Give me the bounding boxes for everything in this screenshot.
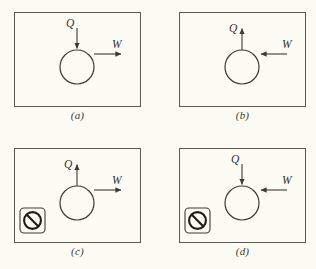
prohibition-icon-slash — [27, 215, 39, 227]
system-circle — [60, 186, 94, 220]
prohibition-icon — [185, 208, 210, 233]
panel-a-caption: (a) — [14, 109, 141, 122]
heat-label: Q — [229, 22, 237, 34]
panel-c-diagram — [14, 148, 141, 243]
work-label: W — [112, 174, 122, 186]
work-label: W — [282, 38, 292, 50]
prohibition-icon-slash — [192, 215, 204, 227]
heat-label: Q — [64, 158, 72, 170]
system-circle — [225, 186, 259, 220]
work-label: W — [112, 38, 122, 50]
panel-a: Q W (a) — [14, 12, 141, 107]
panel-c-caption: (c) — [14, 245, 141, 258]
work-label: W — [282, 174, 292, 186]
panel-b-caption: (b) — [179, 109, 306, 122]
heat-label: Q — [66, 17, 74, 29]
system-circle — [60, 50, 94, 84]
panel-d-diagram — [179, 148, 306, 243]
system-circle — [225, 50, 259, 84]
panel-b: Q W (b) — [179, 12, 306, 107]
prohibition-icon — [20, 208, 45, 233]
panel-a-diagram — [14, 12, 141, 107]
figure-root: Q W (a) Q W (b) — [0, 0, 316, 269]
heat-label: Q — [231, 153, 239, 165]
panel-d-caption: (d) — [179, 245, 306, 258]
panel-d: Q W (d) — [179, 148, 306, 243]
panel-c: Q W (c) — [14, 148, 141, 243]
panel-b-diagram — [179, 12, 306, 107]
